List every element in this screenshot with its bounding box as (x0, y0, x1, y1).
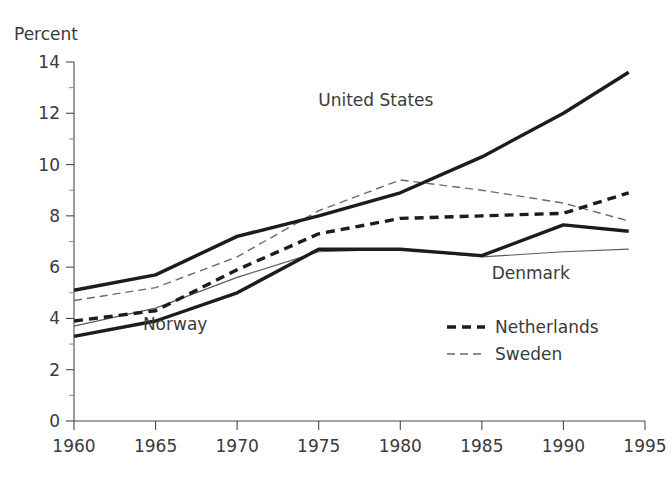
legend-label-netherlands: Netherlands (495, 317, 599, 337)
x-tick-label: 1995 (623, 436, 666, 456)
chart-series (74, 72, 629, 336)
line-chart: 0246810121419601965197019751980198519901… (0, 0, 672, 487)
x-tick-label: 1970 (216, 436, 259, 456)
x-tick-label: 1985 (460, 436, 503, 456)
series-line-netherlands (74, 193, 629, 321)
inline-label-denmark: Denmark (492, 263, 570, 283)
x-tick-label: 1960 (52, 436, 95, 456)
legend-label-sweden: Sweden (495, 344, 562, 364)
y-tick-label: 10 (38, 155, 60, 175)
y-tick-label: 12 (38, 103, 60, 123)
chart-container: 0246810121419601965197019751980198519901… (0, 0, 672, 487)
y-tick-label: 0 (49, 411, 60, 431)
x-tick-label: 1975 (297, 436, 340, 456)
x-tick-label: 1965 (134, 436, 177, 456)
y-tick-label: 4 (49, 308, 60, 328)
chart-inline-labels: United StatesNorwayDenmark (143, 90, 570, 334)
chart-legend: NetherlandsSweden (447, 317, 599, 364)
inline-label-norway: Norway (143, 314, 208, 334)
y-tick-label: 8 (49, 206, 60, 226)
inline-label-united-states: United States (318, 90, 433, 110)
x-tick-label: 1990 (542, 436, 585, 456)
y-axis-title: Percent (14, 24, 78, 44)
chart-axes: 0246810121419601965197019751980198519901… (38, 52, 666, 456)
y-tick-label: 2 (49, 360, 60, 380)
y-tick-label: 14 (38, 52, 60, 72)
y-axis-title-text: Percent (14, 24, 78, 44)
y-tick-label: 6 (49, 257, 60, 277)
x-tick-label: 1980 (379, 436, 422, 456)
